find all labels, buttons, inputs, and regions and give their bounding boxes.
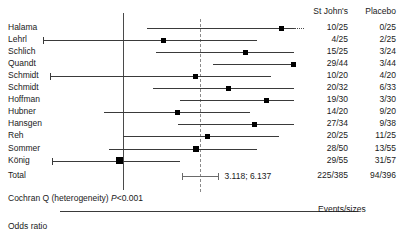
treatment-events: 10/20 — [300, 71, 348, 80]
control-events: 3/24 — [352, 47, 396, 56]
ci-cap-left — [52, 158, 53, 165]
study-label: Hansgen — [8, 119, 42, 128]
forest-plot: St John's Placebo HalamaLehrlSchlichQuan… — [0, 0, 400, 234]
ci-cap-left — [50, 73, 51, 80]
control-events: 13/55 — [352, 144, 396, 153]
control-events: 11/25 — [352, 131, 396, 140]
study-label: Schlich — [8, 47, 35, 56]
study-marker — [161, 38, 166, 43]
treatment-events: 19/30 — [300, 95, 348, 104]
treatment-events: 20/32 — [300, 83, 348, 92]
ci-cap-left — [43, 37, 44, 44]
x-axis-line — [60, 211, 358, 212]
confidence-interval — [180, 100, 294, 101]
treatment-events: 29/44 — [300, 59, 348, 68]
control-events: 3/44 — [352, 59, 396, 68]
study-marker — [175, 110, 180, 115]
confidence-interval — [123, 136, 280, 137]
treatment-events: 15/25 — [300, 47, 348, 56]
study-marker — [291, 62, 296, 67]
control-events: 9/20 — [352, 107, 396, 116]
treatment-events: 28/50 — [300, 144, 348, 153]
confidence-interval — [153, 88, 294, 89]
study-marker — [116, 157, 123, 164]
study-label: Hoffman — [8, 95, 40, 104]
heterogeneity-statement: Cochran Q (heterogeneity) P<0.001 — [8, 193, 143, 203]
study-label: Quandt — [8, 59, 36, 68]
study-marker — [243, 50, 248, 55]
x-axis-title: Odds ratio — [8, 221, 47, 231]
control-events: 31/57 — [352, 156, 396, 165]
confidence-interval — [43, 40, 257, 41]
control-events: 4/20 — [352, 71, 396, 80]
treatment-events: 27/34 — [300, 119, 348, 128]
total-ci-cap-left — [182, 173, 183, 180]
confidence-interval — [147, 28, 294, 29]
confidence-interval — [50, 76, 271, 77]
study-marker — [264, 98, 269, 103]
treatment-events: 14/20 — [300, 107, 348, 116]
treatment-events: 20/25 — [300, 131, 348, 140]
total-control-events: 94/396 — [352, 171, 396, 180]
treatment-events: 4/25 — [300, 35, 348, 44]
control-events: 2/25 — [352, 35, 396, 44]
treatment-events: 10/25 — [300, 23, 348, 32]
column-header-control: Placebo — [352, 7, 396, 16]
confidence-interval — [213, 64, 294, 65]
study-label: Halama — [8, 23, 37, 32]
study-marker — [252, 122, 257, 127]
control-events: 6/33 — [352, 83, 396, 92]
control-events: 3/30 — [352, 95, 396, 104]
total-ci-label: 3.118; 6.137 — [225, 171, 272, 181]
study-label: Hubner — [8, 107, 36, 116]
study-marker — [193, 74, 198, 79]
total-label: Total — [8, 171, 26, 180]
study-label: Lehrl — [8, 35, 27, 44]
footer-note: Events/sizes — [318, 204, 366, 214]
treatment-events: 29/55 — [300, 156, 348, 165]
heterogeneity-value: <0.001 — [117, 193, 143, 203]
total-ci-cap-right — [218, 173, 219, 180]
column-header-treatment: St John's — [300, 7, 348, 16]
study-marker — [205, 134, 210, 139]
total-confidence-interval — [182, 176, 217, 177]
study-marker — [226, 86, 231, 91]
study-label: Schmidt — [8, 83, 39, 92]
study-label: König — [8, 156, 30, 165]
study-label: Sommer — [8, 144, 40, 153]
confidence-interval — [109, 149, 256, 150]
confidence-interval — [156, 52, 294, 53]
study-label: Reh — [8, 131, 24, 140]
ci-open-right — [294, 28, 304, 29]
summary-effect-line — [200, 19, 201, 192]
total-treatment-events: 225/385 — [300, 171, 348, 180]
confidence-interval — [178, 124, 294, 125]
control-events: 9/38 — [352, 119, 396, 128]
study-label: Schmidt — [8, 71, 39, 80]
heterogeneity-label: Cochran Q (heterogeneity) — [8, 193, 111, 203]
study-marker — [193, 146, 199, 152]
control-events: 0/25 — [352, 23, 396, 32]
study-marker — [279, 26, 284, 31]
